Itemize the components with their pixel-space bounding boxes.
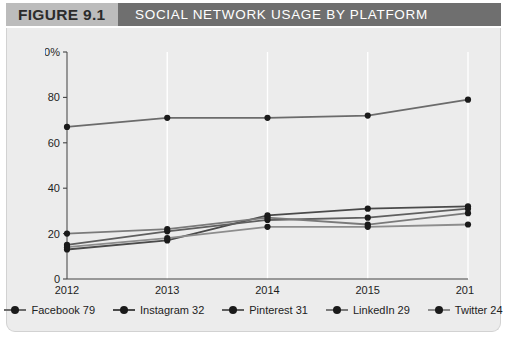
legend-marker-icon [113, 305, 135, 315]
figure-container: FIGURE 9.1 SOCIAL NETWORK USAGE BY PLATF… [0, 0, 507, 338]
legend-marker-icon [326, 305, 348, 315]
data-point-linkedin [64, 231, 70, 237]
y-axis-tick-label: 80 [48, 91, 60, 103]
figure-title: SOCIAL NETWORK USAGE BY PLATFORM [135, 7, 428, 22]
legend-label: LinkedIn 29 [353, 304, 410, 316]
x-axis-tick-label: 2015 [356, 284, 380, 296]
figure-number-band: FIGURE 9.1 [6, 3, 118, 26]
data-point-twitter [365, 224, 371, 230]
data-point-facebook [64, 124, 70, 130]
chart-panel: 020406080100%20122013201420152016 Facebo… [6, 28, 501, 332]
chart-legend: Facebook 79Instagram 32Pinterest 31Linke… [7, 304, 500, 316]
line-chart: 020406080100%20122013201420152016 [45, 46, 474, 301]
x-axis-tick-label: 2014 [255, 284, 279, 296]
data-point-twitter [164, 235, 170, 241]
y-axis-tick-label: 60 [48, 137, 60, 149]
legend-item-pinterest[interactable]: Pinterest 31 [222, 304, 308, 316]
legend-label: Instagram 32 [140, 304, 204, 316]
legend-label: Twitter 24 [455, 304, 503, 316]
data-point-twitter [264, 224, 270, 230]
y-axis-tick-label: 40 [48, 182, 60, 194]
figure-number: FIGURE 9.1 [18, 6, 105, 24]
data-point-facebook [465, 97, 471, 103]
data-point-pinterest [365, 215, 371, 221]
figure-header: FIGURE 9.1 SOCIAL NETWORK USAGE BY PLATF… [6, 3, 501, 26]
legend-item-facebook[interactable]: Facebook 79 [4, 304, 95, 316]
x-axis-tick-label: 2012 [55, 284, 79, 296]
legend-marker-icon [428, 305, 450, 315]
data-point-linkedin [164, 226, 170, 232]
legend-item-instagram[interactable]: Instagram 32 [113, 304, 204, 316]
legend-marker-icon [222, 305, 244, 315]
data-point-instagram [365, 206, 371, 212]
data-point-linkedin [264, 215, 270, 221]
x-axis-tick-label: 2016 [456, 284, 474, 296]
legend-label: Pinterest 31 [249, 304, 308, 316]
y-axis-tick-label: 100% [45, 46, 60, 58]
legend-label: Facebook 79 [31, 304, 95, 316]
plot-area: 020406080100%20122013201420152016 [45, 46, 474, 301]
data-point-twitter [64, 244, 70, 250]
legend-item-linkedin[interactable]: LinkedIn 29 [326, 304, 410, 316]
data-point-facebook [164, 115, 170, 121]
legend-marker-icon [4, 305, 26, 315]
legend-item-twitter[interactable]: Twitter 24 [428, 304, 503, 316]
y-axis-tick-label: 20 [48, 228, 60, 240]
data-point-twitter [465, 221, 471, 227]
figure-title-band: SOCIAL NETWORK USAGE BY PLATFORM [118, 3, 501, 26]
data-point-linkedin [465, 210, 471, 216]
data-point-facebook [365, 112, 371, 118]
x-axis-tick-label: 2013 [155, 284, 179, 296]
data-point-facebook [264, 115, 270, 121]
